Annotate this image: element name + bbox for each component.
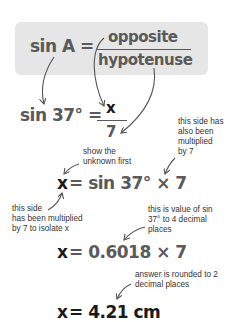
arrow-hypotenuse-to-7 bbox=[121, 68, 155, 133]
arrow-show-unknown bbox=[64, 164, 79, 174]
arrow-also-multiplied bbox=[165, 158, 175, 174]
arrow-sin-value bbox=[124, 227, 145, 240]
arrow-isolate-x bbox=[48, 193, 62, 210]
arrow-rounded bbox=[117, 284, 131, 299]
arrow-sinA-to-sin37 bbox=[42, 57, 54, 104]
arrow-opposite-to-x bbox=[94, 38, 104, 106]
